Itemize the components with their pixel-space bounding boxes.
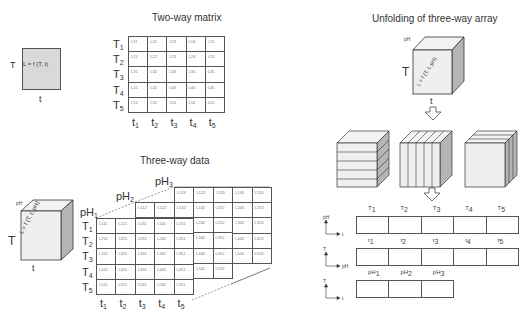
strip-cell (356, 280, 389, 298)
strip-cell (421, 216, 454, 234)
strip-cell (421, 280, 454, 298)
strip-y-axis: pH (323, 214, 329, 220)
strip-cell (388, 280, 421, 298)
strip-cell (486, 216, 519, 234)
strip-header: T1 (368, 205, 376, 213)
strip-header: pH1 (368, 269, 380, 277)
strip-header: T5 (498, 205, 506, 213)
strip-header: pH2 (400, 269, 412, 277)
strip-x-axis: pH (342, 263, 348, 269)
strip-cell (356, 216, 389, 234)
strip-y-axis: T (323, 278, 326, 284)
strip-x-axis: t (342, 231, 343, 237)
unfolding-cube-y-axis: T (402, 65, 409, 79)
strip-header: pH3 (433, 269, 445, 277)
strip-cell (421, 248, 454, 266)
unfolding-cube-depth-axis: pH (404, 36, 410, 42)
strip-header: t2 (400, 237, 406, 245)
strip-cell (356, 248, 389, 266)
strip-header: t4 (465, 237, 471, 245)
strip-cell (388, 216, 421, 234)
unfolding-cube-x-axis: t (430, 96, 433, 106)
strip-header: t5 (498, 237, 504, 245)
strip-x-axis: t (342, 295, 343, 301)
strip-header: T4 (465, 205, 473, 213)
strip-cell (388, 248, 421, 266)
strip-cell (453, 216, 486, 234)
strip-header: t1 (368, 237, 374, 245)
strip-cell (486, 248, 519, 266)
strip-y-axis: T (323, 246, 326, 252)
strip-header: t3 (433, 237, 439, 245)
strip-header: T2 (400, 205, 408, 213)
strip-cell (453, 248, 486, 266)
strip-header: T3 (433, 205, 441, 213)
unfolding-cube (0, 0, 529, 320)
